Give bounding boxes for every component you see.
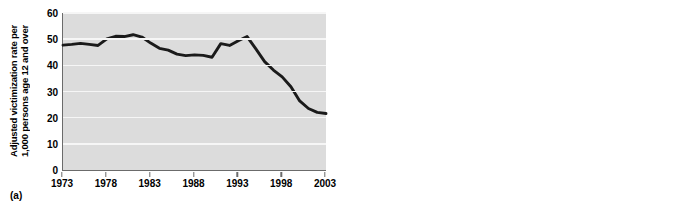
plot-area-a: [62, 13, 326, 171]
x-tick-mark: [280, 172, 281, 177]
y-tick-label: 10: [32, 138, 58, 149]
x-tick-mark: [61, 172, 62, 177]
gridline: [63, 117, 326, 119]
gridline: [63, 143, 326, 145]
chart-panel-a: Adjusted victimization rate per 1,000 pe…: [0, 0, 337, 214]
y-tick-label: 0: [32, 165, 58, 176]
y-tick-label: 30: [32, 86, 58, 97]
y-tick-label: 60: [32, 8, 58, 19]
x-tick-label: 1973: [51, 178, 73, 189]
data-line: [63, 35, 326, 114]
gridline: [63, 12, 326, 14]
x-tick-label: 2003: [314, 178, 336, 189]
x-tick-mark: [105, 172, 106, 177]
x-tick-mark: [193, 172, 194, 177]
y-axis-title-a-line2: 1,000 persons age 12 and over: [19, 25, 30, 157]
gridline: [63, 38, 326, 40]
y-tick-label: 20: [32, 112, 58, 123]
x-tick-label: 1998: [270, 178, 292, 189]
y-axis-title-a-line1: Adjusted victimization rate per: [8, 25, 19, 157]
y-axis-title-a: Adjusted victimization rate per 1,000 pe…: [8, 10, 30, 172]
y-tick-label: 40: [32, 60, 58, 71]
x-tick-label: 1978: [95, 178, 117, 189]
x-tick-label: 1993: [226, 178, 248, 189]
figure-container: Adjusted victimization rate per 1,000 pe…: [0, 0, 674, 214]
x-tick-mark: [324, 172, 325, 177]
x-tick-mark: [237, 172, 238, 177]
x-tick-mark: [149, 172, 150, 177]
gridline: [63, 91, 326, 93]
gridline: [63, 65, 326, 67]
x-tick-label: 1983: [139, 178, 161, 189]
x-tick-label: 1988: [182, 178, 204, 189]
chart-panel-b: Adjusted victimization rate per 1,000 ho…: [337, 0, 674, 214]
panel-label-a: (a): [10, 190, 22, 201]
y-tick-label: 50: [32, 34, 58, 45]
